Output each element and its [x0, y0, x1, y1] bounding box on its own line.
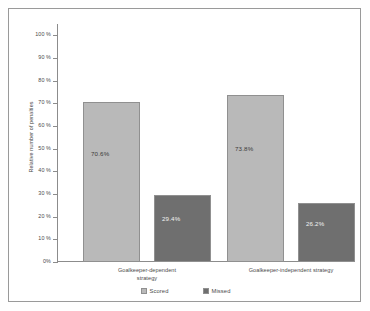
- bar-value-label: 26.2%: [306, 220, 324, 227]
- y-axis-tick-label: 90 %: [11, 55, 51, 60]
- bar-missed: [154, 195, 211, 262]
- x-axis-category-label: Goalkeeper-dependentstrategy: [87, 266, 207, 283]
- y-axis-tick-label: 100 %: [11, 33, 51, 38]
- legend-item-scored[interactable]: Scored: [141, 288, 169, 294]
- legend-swatch-icon: [203, 288, 209, 294]
- chart-figure-frame: 100 %90 %80 %70 %60 %50 %40 %30 %20 %10 …: [8, 8, 361, 302]
- bar-missed: [298, 203, 355, 262]
- bar-value-label: 73.8%: [235, 145, 253, 152]
- x-axis-category-label-line: Goalkeeper-dependent: [87, 266, 207, 274]
- chart-legend: ScoredMissed: [9, 288, 362, 294]
- x-axis-category-label-line: strategy: [87, 274, 207, 282]
- y-axis-tick-label: 0%: [11, 259, 51, 264]
- legend-item-missed[interactable]: Missed: [203, 288, 231, 294]
- y-axis-tick-label: 10 %: [11, 237, 51, 242]
- plot-area: 70.6%29.4%73.8%26.2%: [57, 24, 347, 262]
- y-axis-title: Relative number of penalties: [28, 77, 34, 197]
- bar-value-label: 29.4%: [162, 215, 180, 222]
- bar-scored: [83, 102, 140, 262]
- legend-swatch-icon: [141, 288, 147, 294]
- x-axis-category-label-line: Goalkeeper-independent strategy: [231, 266, 351, 274]
- bar-value-label: 70.6%: [91, 150, 109, 157]
- legend-label: Scored: [150, 288, 169, 294]
- y-axis-tick-label: 20 %: [11, 214, 51, 219]
- y-axis-tick: [53, 262, 58, 263]
- x-axis-category-label: Goalkeeper-independent strategy: [231, 266, 351, 274]
- legend-label: Missed: [212, 288, 231, 294]
- bar-scored: [227, 95, 284, 262]
